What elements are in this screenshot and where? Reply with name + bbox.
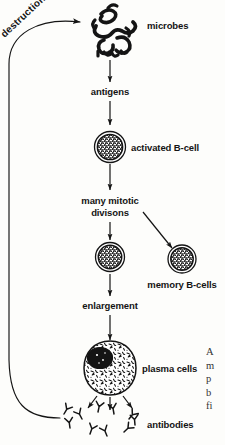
plasma-cell-nucleus: [88, 348, 113, 369]
edge-plasma-antibodies: [88, 396, 132, 410]
node-antibodies: [61, 401, 139, 437]
label-antibodies: antibodies: [147, 419, 194, 430]
label-plasma-cells: plasma cells: [142, 363, 197, 374]
node-activated-b-cell: [95, 132, 126, 163]
node-microbes: [93, 5, 136, 56]
edge-mitosis-memory: [143, 212, 172, 248]
label-mitotic-divisions-line1: many mitotic: [81, 195, 138, 206]
label-enlargement: enlargement: [82, 300, 137, 311]
label-activated-b-cell: activated B-cell: [131, 142, 199, 153]
margin-note-fragment: A m p b fi: [206, 345, 225, 413]
node-plasma-cell: [84, 341, 136, 395]
node-memory-b-cell: [168, 245, 196, 273]
immune-response-diagram: destruction microbes antigens activated …: [0, 0, 225, 445]
label-memory-b-cells: memory B-cells: [147, 279, 216, 290]
label-antigens: antigens: [91, 86, 129, 97]
label-mitotic-divisions-line2: divisons: [91, 207, 129, 218]
edge-destruction-loop: [9, 21, 80, 418]
diagram-canvas: [0, 0, 225, 445]
label-microbes: microbes: [147, 20, 188, 31]
node-daughter-b-cell: [96, 243, 125, 272]
